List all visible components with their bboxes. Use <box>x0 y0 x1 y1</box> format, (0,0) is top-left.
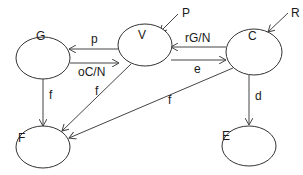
state-label-c: C <box>248 29 257 43</box>
edge-label-c-f: f <box>168 93 172 107</box>
input-arrow-r <box>268 13 288 32</box>
edge-label-g-f: f <box>49 88 53 102</box>
input-label-r: R <box>291 6 300 20</box>
edge-label-c-v: rG/N <box>185 31 210 45</box>
edge-label-c-e: d <box>255 89 262 103</box>
state-label-v: V <box>138 28 146 42</box>
nodes-layer <box>16 24 282 168</box>
state-node-g <box>16 37 70 79</box>
edge-label-g-v: oC/N <box>78 65 105 79</box>
state-label-e: E <box>222 129 230 143</box>
state-diagram: GVCFEpoC/NrG/NefffdPR <box>0 0 303 175</box>
edge-label-v-c: e <box>194 62 201 76</box>
state-label-g: G <box>36 29 45 43</box>
state-node-e <box>222 126 276 166</box>
edge-label-v-g: p <box>91 32 98 46</box>
input-label-p: P <box>182 6 190 20</box>
state-label-f: F <box>18 131 25 145</box>
